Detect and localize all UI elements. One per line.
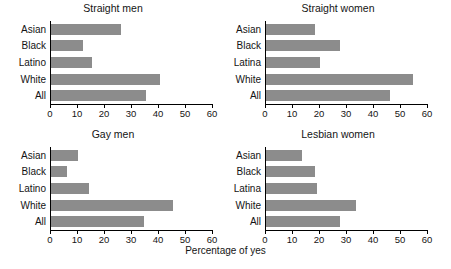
x-tick-label: 20 xyxy=(314,108,325,119)
bar-row: Black xyxy=(51,38,213,55)
x-tick-label: 50 xyxy=(180,234,191,245)
bar xyxy=(51,150,78,161)
bar-row: White xyxy=(51,71,213,88)
category-label: All xyxy=(250,216,261,227)
category-label: Asian xyxy=(21,150,46,161)
category-label: Latina xyxy=(234,57,261,68)
bar xyxy=(51,74,160,85)
category-label: All xyxy=(35,216,46,227)
bar-row: All xyxy=(51,213,213,230)
x-tick-label: 40 xyxy=(153,234,164,245)
x-tick-label: 60 xyxy=(422,108,433,119)
bar-row: Black xyxy=(51,164,213,181)
x-tick-label: 10 xyxy=(72,108,83,119)
panel-title: Straight women xyxy=(225,2,451,15)
x-tick-label: 20 xyxy=(99,234,110,245)
x-axis-ticks: 0102030405060 xyxy=(265,104,428,120)
bar xyxy=(51,40,83,51)
bar-rows: Asian Black Latino White All xyxy=(51,21,213,104)
bar xyxy=(266,200,356,211)
category-label: White xyxy=(235,200,261,211)
x-tick-label: 30 xyxy=(126,108,137,119)
x-tick-label: 20 xyxy=(99,108,110,119)
x-axis-ticks: 0102030405060 xyxy=(50,230,213,246)
category-label: Latino xyxy=(19,57,46,68)
x-tick-label: 30 xyxy=(341,108,352,119)
category-label: White xyxy=(20,200,46,211)
x-tick-label: 0 xyxy=(262,108,267,119)
x-tick-label: 0 xyxy=(262,234,267,245)
x-tick-label: 30 xyxy=(341,234,352,245)
category-label: Asian xyxy=(236,24,261,35)
bar-row: Black xyxy=(266,164,428,181)
bar-row: White xyxy=(51,197,213,214)
bar xyxy=(266,90,390,101)
bar-row: White xyxy=(266,197,428,214)
category-label: White xyxy=(20,74,46,85)
bar xyxy=(266,150,302,161)
bar xyxy=(266,24,315,35)
bar-row: Latina xyxy=(266,180,428,197)
category-label: Black xyxy=(22,166,46,177)
plot-area: Asian Black Latina White All xyxy=(265,147,427,230)
bar-row: Asian xyxy=(51,147,213,164)
x-tick-label: 40 xyxy=(368,108,379,119)
bar-row: Latino xyxy=(51,54,213,71)
category-label: All xyxy=(250,90,261,101)
bar-rows: Asian Black Latino White All xyxy=(51,147,213,230)
bar xyxy=(266,166,315,177)
bar-row: All xyxy=(266,87,428,104)
bar xyxy=(51,183,89,194)
category-label: Asian xyxy=(236,150,261,161)
x-tick-label: 50 xyxy=(395,234,406,245)
x-tick-label: 60 xyxy=(422,234,433,245)
bar xyxy=(51,24,121,35)
bar xyxy=(51,57,92,68)
bar-row: Black xyxy=(266,38,428,55)
category-label: Latina xyxy=(234,183,261,194)
x-tick-label: 60 xyxy=(207,234,218,245)
bar-rows: Asian Black Latina White All xyxy=(266,21,428,104)
panel-title: Lesbian women xyxy=(225,128,451,141)
plot-area: Asian Black Latina White All xyxy=(265,21,427,104)
bar-row: Asian xyxy=(51,21,213,38)
bar xyxy=(51,216,144,227)
x-tick-label: 40 xyxy=(368,234,379,245)
x-tick-label: 60 xyxy=(207,108,218,119)
x-tick-label: 30 xyxy=(126,234,137,245)
bar-row: Asian xyxy=(266,147,428,164)
bar xyxy=(266,74,413,85)
bar xyxy=(51,200,173,211)
bar-row: Asian xyxy=(266,21,428,38)
bar xyxy=(51,90,146,101)
category-label: White xyxy=(235,74,261,85)
x-tick-label: 50 xyxy=(395,108,406,119)
x-axis-ticks: 0102030405060 xyxy=(50,104,213,120)
bar-row: Latino xyxy=(51,180,213,197)
x-tick-label: 20 xyxy=(314,234,325,245)
bar xyxy=(266,183,317,194)
x-tick-label: 10 xyxy=(287,108,298,119)
x-axis-caption: Percentage of yes xyxy=(0,245,451,256)
bar-row: All xyxy=(266,213,428,230)
category-label: All xyxy=(35,90,46,101)
chart-figure: Straight men Asian Black Latino White xyxy=(0,0,451,269)
bar xyxy=(266,216,340,227)
bar-row: Latina xyxy=(266,54,428,71)
plot-area: Asian Black Latino White All xyxy=(50,21,212,104)
plot-area: Asian Black Latino White All xyxy=(50,147,212,230)
bar xyxy=(51,166,67,177)
category-label: Latino xyxy=(19,183,46,194)
x-tick-label: 10 xyxy=(287,234,298,245)
x-tick-label: 40 xyxy=(153,108,164,119)
x-tick-label: 0 xyxy=(47,108,52,119)
category-label: Black xyxy=(237,166,261,177)
category-label: Black xyxy=(22,40,46,51)
panel-title: Gay men xyxy=(0,128,226,141)
category-label: Black xyxy=(237,40,261,51)
panel-title: Straight men xyxy=(0,2,226,15)
x-tick-label: 10 xyxy=(72,234,83,245)
x-tick-label: 50 xyxy=(180,108,191,119)
x-tick-label: 0 xyxy=(47,234,52,245)
category-label: Asian xyxy=(21,24,46,35)
